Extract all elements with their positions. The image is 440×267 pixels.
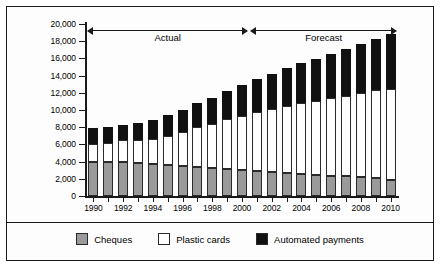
- legend-item-automated-payments: Automated payments: [256, 233, 364, 245]
- bar-segment-automated-payments: [282, 68, 292, 105]
- bar-segment-automated-payments: [252, 79, 262, 112]
- x-axis-tick: [123, 197, 124, 202]
- legend-label: Cheques: [94, 234, 132, 245]
- bar-segment-plastic-cards: [133, 140, 143, 163]
- bar-2010: [386, 24, 396, 196]
- bar-1995: [163, 24, 173, 196]
- x-axis-tick: [301, 197, 302, 202]
- bar-segment-cheques: [192, 167, 202, 196]
- y-axis-tick-label: 14,000: [51, 71, 76, 81]
- bar-segment-cheques: [371, 178, 381, 196]
- x-axis-tick: [376, 197, 377, 202]
- x-axis-tick-label: 2010: [381, 203, 400, 213]
- x-axis-tick: [361, 197, 362, 202]
- chart-screenshot: Volumes millions 20,00018,00016,00014,00…: [0, 0, 440, 267]
- y-axis-tick: [79, 93, 86, 94]
- bar-segment-plastic-cards: [356, 93, 366, 177]
- bar-segment-plastic-cards: [178, 132, 188, 167]
- bar-segment-plastic-cards: [192, 127, 202, 167]
- y-axis-tick-label: 16,000: [51, 53, 76, 63]
- bar-1996: [178, 24, 188, 196]
- bar-segment-plastic-cards: [88, 144, 98, 162]
- bar-1991: [103, 24, 113, 196]
- bar-segment-automated-payments: [371, 39, 381, 91]
- bar-segment-automated-payments: [118, 125, 128, 140]
- x-axis-tick-label: 2000: [233, 203, 252, 213]
- bar-segment-cheques: [103, 162, 113, 196]
- bar-segment-automated-payments: [356, 44, 366, 93]
- bar-segment-cheques: [222, 169, 232, 196]
- bar-1993: [133, 24, 143, 196]
- legend-swatch: [76, 233, 88, 245]
- chart-legend: ChequesPlastic cardsAutomated payments: [6, 228, 434, 250]
- bar-1990: [88, 24, 98, 196]
- x-axis-tick: [272, 197, 273, 202]
- bar-segment-cheques: [237, 170, 247, 196]
- bar-segment-plastic-cards: [118, 140, 128, 162]
- y-axis-tick: [79, 196, 86, 197]
- bar-segment-cheques: [118, 162, 128, 196]
- y-axis-tick-label: 20,000: [51, 19, 76, 29]
- x-axis-tick-label: 2008: [352, 203, 371, 213]
- legend-item-plastic-cards: Plastic cards: [158, 233, 230, 245]
- legend-swatch: [256, 233, 268, 245]
- bar-segment-cheques: [207, 168, 217, 196]
- bar-segment-automated-payments: [222, 91, 232, 119]
- y-axis-tick: [79, 24, 86, 25]
- bar-1998: [207, 24, 217, 196]
- x-axis-tick-label: 1990: [84, 203, 103, 213]
- x-axis-tick: [391, 197, 392, 202]
- x-axis-tick-label: 1992: [114, 203, 133, 213]
- x-axis-tick-label: 2002: [262, 203, 281, 213]
- bar-segment-cheques: [163, 165, 173, 196]
- bar-segment-automated-payments: [311, 59, 321, 101]
- bar-segment-plastic-cards: [282, 106, 292, 173]
- y-axis-tick-label: 4,000: [55, 157, 76, 167]
- y-axis-tick: [79, 179, 86, 180]
- x-axis-tick: [183, 197, 184, 202]
- bar-segment-plastic-cards: [267, 109, 277, 172]
- y-axis-title: Volumes millions: [0, 49, 1, 122]
- x-axis-tick: [257, 197, 258, 202]
- bar-segment-plastic-cards: [371, 90, 381, 178]
- bar-1999: [222, 24, 232, 196]
- bar-segment-cheques: [252, 171, 262, 196]
- bar-segment-cheques: [267, 172, 277, 196]
- bar-2001: [252, 24, 262, 196]
- bar-segment-cheques: [133, 163, 143, 196]
- x-axis-tick: [346, 197, 347, 202]
- bar-segment-cheques: [296, 174, 306, 196]
- bar-segment-cheques: [356, 177, 366, 196]
- x-axis-tick-label: 1996: [173, 203, 192, 213]
- bar-2004: [296, 24, 306, 196]
- bar-segment-automated-payments: [178, 110, 188, 132]
- bar-segment-plastic-cards: [296, 103, 306, 174]
- bar-segment-cheques: [326, 176, 336, 196]
- legend-label: Plastic cards: [176, 234, 230, 245]
- bar-segment-cheques: [88, 162, 98, 196]
- bar-2002: [267, 24, 277, 196]
- bar-segment-automated-payments: [207, 98, 217, 124]
- y-axis-tick: [79, 127, 86, 128]
- bar-segment-plastic-cards: [326, 98, 336, 175]
- bar-segment-cheques: [282, 173, 292, 196]
- x-axis-tick: [168, 197, 169, 202]
- y-axis-tick: [79, 110, 86, 111]
- bar-segment-automated-payments: [192, 103, 202, 127]
- bar-2006: [326, 24, 336, 196]
- bar-segment-automated-payments: [296, 63, 306, 103]
- bar-segment-plastic-cards: [163, 136, 173, 165]
- span-label-actual: Actual: [155, 32, 181, 43]
- bar-segment-plastic-cards: [148, 139, 158, 164]
- x-axis-tick: [153, 197, 154, 202]
- y-axis-tick-label: 2,000: [55, 174, 76, 184]
- bar-segment-plastic-cards: [252, 112, 262, 171]
- x-axis-tick: [287, 197, 288, 202]
- bar-segment-plastic-cards: [311, 101, 321, 175]
- plot-area: [86, 24, 398, 196]
- bar-segment-cheques: [386, 180, 396, 196]
- x-axis-tick: [227, 197, 228, 202]
- bar-1997: [192, 24, 202, 196]
- bar-1992: [118, 24, 128, 196]
- x-axis-tick: [197, 197, 198, 202]
